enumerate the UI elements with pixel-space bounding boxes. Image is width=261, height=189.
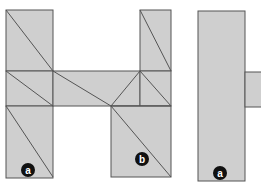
- badge-label: b: [139, 154, 145, 165]
- diagram-canvas: a b a: [0, 0, 261, 189]
- badge-right-a: a: [213, 166, 227, 180]
- crossbar-block: [53, 71, 140, 106]
- badge-left-a: a: [21, 163, 35, 177]
- tall-rectangle: [198, 11, 245, 181]
- badge-label: a: [217, 168, 223, 179]
- badge-middle-b: b: [135, 152, 149, 166]
- rectangle-shape: [198, 11, 261, 181]
- badge-label: a: [25, 165, 31, 176]
- h-shape: [6, 10, 171, 178]
- side-tab: [245, 72, 261, 107]
